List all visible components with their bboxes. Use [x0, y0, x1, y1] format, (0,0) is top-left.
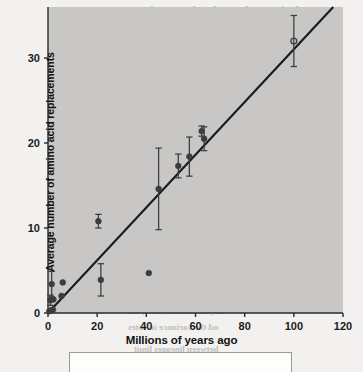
data-point	[59, 293, 65, 299]
data-point	[50, 307, 56, 313]
y-tick-label: 20	[20, 137, 40, 149]
data-point	[95, 218, 101, 224]
y-tick-label: 30	[20, 52, 40, 64]
regression-line	[48, 7, 333, 313]
caption-box	[69, 352, 292, 372]
data-point	[60, 280, 66, 286]
y-tick-label: 10	[20, 222, 40, 234]
x-tick-label: 120	[334, 320, 352, 332]
data-point	[49, 281, 55, 287]
x-tick-label: 20	[91, 320, 103, 332]
x-axis-title: Millions of years ago	[0, 334, 363, 346]
data-point	[201, 136, 207, 142]
x-tick-label: 40	[140, 320, 152, 332]
data-point	[186, 154, 192, 160]
data-point	[199, 128, 205, 134]
y-tick-label: 0	[20, 307, 40, 319]
data-point	[146, 270, 152, 276]
x-tick-label: 80	[239, 320, 251, 332]
error-bar	[291, 16, 297, 67]
error-bars	[47, 16, 297, 306]
x-tick-label: 60	[189, 320, 201, 332]
data-point	[175, 163, 181, 169]
data-point	[156, 186, 162, 192]
x-tick-label: 100	[285, 320, 303, 332]
x-tick-label: 0	[45, 320, 51, 332]
data-point	[51, 297, 57, 303]
y-axis-title: Average number of amino acid replacement…	[44, 47, 56, 277]
data-points	[46, 38, 296, 314]
data-point	[98, 277, 104, 283]
